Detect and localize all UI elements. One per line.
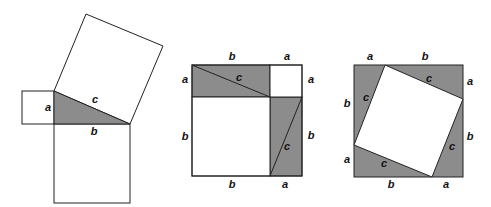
label-c-right: c <box>284 140 290 152</box>
label-c-bottom: c <box>381 157 387 169</box>
figure-rearrangement-a2-b2: b a a b a b b a c c <box>182 50 315 190</box>
label-c-top: c <box>426 72 432 84</box>
label-bottom-b: b <box>388 178 395 190</box>
label-a: a <box>45 101 51 113</box>
label-top-a: a <box>284 50 290 62</box>
label-left-b: b <box>182 130 189 142</box>
label-right-b: b <box>467 130 474 142</box>
label-c-right: c <box>449 140 455 152</box>
figure-rearrangement-c2: a b b a a b b a c c c c <box>344 50 474 190</box>
label-top-a: a <box>367 50 373 62</box>
pythagoras-diagram: a c b b a a b a b b a c c a b b a a b b … <box>0 0 491 207</box>
square-a <box>270 65 302 97</box>
label-c-left: c <box>363 91 369 103</box>
label-b: b <box>91 125 98 137</box>
label-c-top: c <box>236 71 242 83</box>
square-b <box>192 97 270 176</box>
label-bottom-b: b <box>229 178 236 190</box>
label-bottom-a: a <box>282 178 288 190</box>
label-right-b: b <box>308 129 315 141</box>
label-bottom-a: a <box>443 178 449 190</box>
label-left-a: a <box>182 73 188 85</box>
label-top-b: b <box>422 50 429 62</box>
figure-squares-on-sides: a c b <box>22 14 163 203</box>
label-left-b: b <box>344 97 351 109</box>
label-c: c <box>92 93 98 105</box>
label-right-a: a <box>467 75 473 87</box>
label-right-a: a <box>308 73 314 85</box>
label-left-a: a <box>344 153 350 165</box>
label-top-b: b <box>229 50 236 62</box>
